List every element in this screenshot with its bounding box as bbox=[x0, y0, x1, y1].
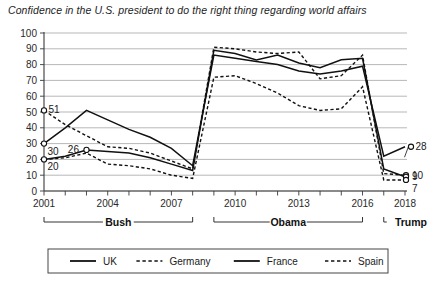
legend-label-germany: Germany bbox=[169, 256, 210, 267]
era-bracket bbox=[384, 217, 387, 222]
y-axis-label: 0 bbox=[31, 186, 37, 197]
x-axis-label: 2001 bbox=[33, 198, 56, 209]
x-axis-label: 2004 bbox=[97, 198, 120, 209]
data-point-label: 30 bbox=[48, 146, 60, 157]
series-group bbox=[44, 47, 405, 180]
x-axis-label: 2018 bbox=[394, 198, 417, 209]
y-axis-label: 20 bbox=[26, 154, 38, 165]
era-brackets: BushObamaTrump bbox=[44, 216, 427, 228]
y-axis-label: 30 bbox=[26, 138, 38, 149]
data-point-marker bbox=[84, 147, 89, 152]
label-leader bbox=[405, 147, 409, 157]
era-bracket bbox=[307, 217, 363, 222]
chart-page: Confidence in the U.S. president to do t… bbox=[0, 0, 440, 285]
legend-label-uk: UK bbox=[103, 256, 117, 267]
series-line-germany bbox=[44, 47, 405, 175]
x-tickmarks bbox=[44, 191, 405, 196]
data-point-label: 28 bbox=[416, 141, 428, 152]
x-axis-label: 2010 bbox=[224, 198, 247, 209]
era-bracket bbox=[214, 217, 270, 222]
legend: UKGermanyFranceSpain bbox=[48, 249, 388, 273]
series-line-uk bbox=[44, 55, 405, 166]
era-label: Bush bbox=[105, 216, 131, 228]
y-axis-label: 70 bbox=[26, 75, 38, 86]
x-axis-label: 2007 bbox=[160, 198, 183, 209]
data-point-label: 20 bbox=[48, 161, 60, 172]
y-axis-label: 40 bbox=[26, 122, 38, 133]
data-point-label: 51 bbox=[49, 104, 61, 115]
era-label: Obama bbox=[270, 216, 306, 228]
y-axis-label: 50 bbox=[26, 107, 38, 118]
x-axis-labels: 2001200420072010201320162018 bbox=[33, 198, 417, 209]
data-point-label: 7 bbox=[412, 183, 418, 194]
era-bracket bbox=[44, 217, 103, 222]
x-axis-label: 2013 bbox=[288, 198, 311, 209]
data-point-marker bbox=[41, 108, 46, 113]
legend-label-spain: Spain bbox=[358, 256, 384, 267]
data-point-label: 9 bbox=[412, 171, 418, 182]
y-axis-label: 100 bbox=[20, 28, 37, 39]
x-axis-label: 2016 bbox=[351, 198, 374, 209]
data-point-marker bbox=[41, 157, 46, 162]
data-point-marker bbox=[403, 177, 408, 182]
y-axis-label: 90 bbox=[26, 43, 38, 54]
data-point-marker bbox=[408, 144, 413, 149]
y-axis-label: 10 bbox=[26, 170, 38, 181]
legend-label-france: France bbox=[267, 256, 299, 267]
era-bracket bbox=[134, 217, 193, 222]
line-chart: 0102030405060708090100200120042007201020… bbox=[0, 0, 440, 285]
data-point-label: 26 bbox=[68, 144, 80, 155]
y-axis-label: 60 bbox=[26, 91, 38, 102]
era-label: Trump bbox=[395, 216, 427, 228]
y-axis-label: 80 bbox=[26, 59, 38, 70]
data-point-marker bbox=[41, 141, 46, 146]
